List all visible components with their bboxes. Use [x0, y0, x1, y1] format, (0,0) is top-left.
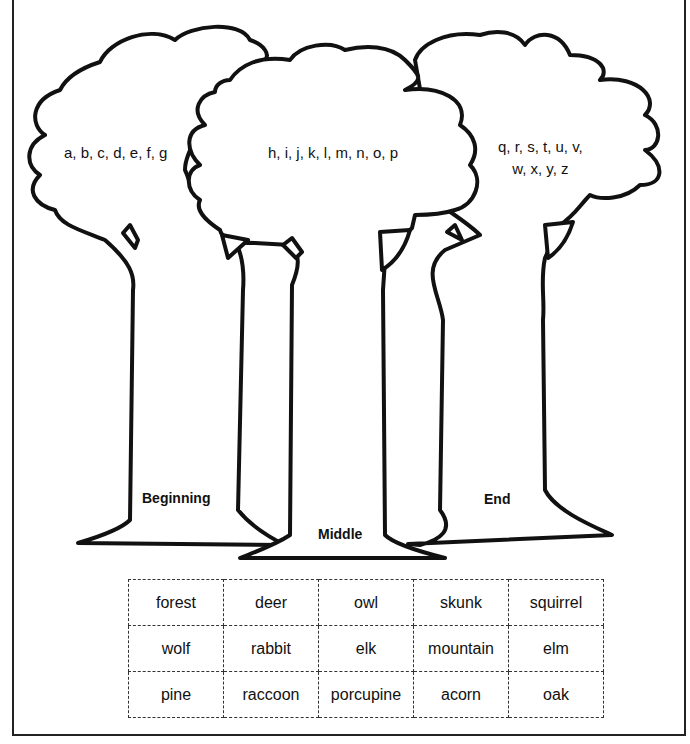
word-cell: acorn — [414, 672, 509, 718]
word-cell: elk — [319, 626, 414, 672]
word-cell: deer — [224, 580, 319, 626]
tree-letters-end: q, r, s, t, u, v, w, x, y, z — [498, 136, 583, 180]
word-cell: owl — [319, 580, 414, 626]
word-cell: raccoon — [224, 672, 319, 718]
word-cell: wolf — [129, 626, 224, 672]
word-bank-row: forest deer owl skunk squirrel — [129, 580, 604, 626]
word-cell: porcupine — [319, 672, 414, 718]
tree-letters-end-line1: q, r, s, t, u, v, — [498, 136, 583, 158]
word-cell: squirrel — [509, 580, 604, 626]
word-cell: rabbit — [224, 626, 319, 672]
word-cell: mountain — [414, 626, 509, 672]
tree-label-end: End — [484, 491, 510, 507]
word-cell: pine — [129, 672, 224, 718]
word-cell: oak — [509, 672, 604, 718]
word-cell: elm — [509, 626, 604, 672]
word-bank-table: forest deer owl skunk squirrel wolf rabb… — [128, 579, 604, 718]
tree-label-beginning: Beginning — [142, 490, 210, 506]
word-cell: forest — [129, 580, 224, 626]
word-cell: skunk — [414, 580, 509, 626]
tree-letters-middle: h, i, j, k, l, m, n, o, p — [268, 142, 398, 164]
tree-label-middle: Middle — [318, 526, 362, 542]
word-bank-row: pine raccoon porcupine acorn oak — [129, 672, 604, 718]
word-bank-row: wolf rabbit elk mountain elm — [129, 626, 604, 672]
tree-letters-end-line2: w, x, y, z — [498, 158, 583, 180]
tree-letters-beginning: a, b, c, d, e, f, g — [64, 142, 167, 164]
